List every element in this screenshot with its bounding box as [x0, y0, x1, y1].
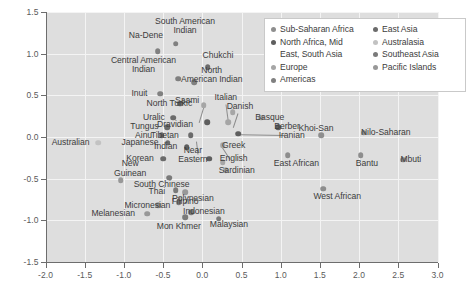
- y-axis-tick-label: 1.5: [8, 7, 39, 17]
- y-axis-tick: [41, 220, 46, 221]
- y-axis-tick-label: 0.0: [8, 132, 39, 142]
- x-axis-tick: [85, 263, 86, 268]
- y-axis-tick: [41, 179, 46, 180]
- data-point: [204, 119, 210, 125]
- point-label: West African: [313, 192, 360, 201]
- point-label: Bantu: [356, 159, 378, 168]
- legend-item-label: Europe: [280, 61, 307, 74]
- legend-marker-icon: [271, 65, 276, 70]
- legend-marker-icon: [373, 65, 378, 70]
- legend-marker-icon: [373, 27, 378, 32]
- data-point: [157, 91, 163, 97]
- x-axis-tick: [281, 263, 282, 268]
- x-axis-tick: [242, 263, 243, 268]
- point-label: South AmericanIndian: [155, 17, 215, 36]
- point-label: Nilo-Saharan: [361, 128, 411, 137]
- point-label: Chukchi: [203, 51, 234, 60]
- data-point: [160, 156, 166, 162]
- legend-item-label: Southeast Asia: [382, 48, 439, 61]
- x-axis-tick-label: 1.0: [275, 270, 287, 280]
- y-axis-line: [46, 12, 47, 262]
- x-axis-tick: [398, 263, 399, 268]
- x-axis-tick-label: 3.0: [431, 270, 443, 280]
- legend-marker-icon: [373, 52, 378, 57]
- point-label: East African: [274, 159, 319, 168]
- data-point: [201, 103, 207, 109]
- x-axis-tick-label: -1.5: [77, 270, 92, 280]
- grid-line-horizontal: [46, 12, 438, 13]
- data-point: [173, 41, 179, 47]
- point-label: Filipino: [172, 197, 199, 206]
- y-axis-tick-label: -1.0: [8, 215, 39, 225]
- data-point: [319, 133, 325, 139]
- point-label: Dravidian: [157, 120, 193, 129]
- point-label: Mon Khmer: [157, 222, 201, 231]
- data-point: [188, 133, 194, 139]
- point-label: Danish: [227, 102, 253, 111]
- legend-marker-icon: [271, 40, 276, 45]
- point-label: Mbuti: [400, 155, 421, 164]
- legend-item-label: Americas: [280, 73, 315, 86]
- y-axis-tick: [41, 137, 46, 138]
- y-axis-tick: [41, 12, 46, 13]
- y-axis-tick-label: -1.5: [8, 257, 39, 267]
- x-axis-tick: [46, 263, 47, 268]
- y-axis-tick: [41, 262, 46, 263]
- x-axis-tick-label: -2.0: [38, 270, 53, 280]
- data-point: [95, 140, 101, 146]
- x-axis-tick-label: -1.0: [116, 270, 131, 280]
- y-axis-tick-label: 1.0: [8, 49, 39, 59]
- point-label: NorthAmerican Indian: [181, 66, 242, 85]
- point-label: Indonesian: [183, 207, 225, 216]
- legend-marker-icon: [373, 40, 378, 45]
- legend-marker-icon: [271, 27, 276, 32]
- point-label: NewGuinean: [114, 159, 146, 178]
- point-label: Sardinian: [219, 166, 255, 175]
- legend-item-label: North Africa, Mid: [280, 36, 343, 49]
- mds-scatter-chart: -2.0-1.5-1.0-0.50.00.51.01.52.02.53.01.5…: [0, 0, 470, 303]
- x-axis-tick: [202, 263, 203, 268]
- legend-item-label: Australasia: [382, 36, 424, 49]
- legend-item-label: East, South Asia: [280, 48, 342, 61]
- x-axis-tick-label: 2.0: [353, 270, 365, 280]
- point-label: English: [220, 154, 248, 163]
- x-axis-tick-label: 0.5: [235, 270, 247, 280]
- legend: Sub-Saharan AfricaNorth Africa, MidEast,…: [264, 18, 466, 92]
- data-point: [225, 119, 231, 125]
- point-label: Malaysian: [210, 220, 248, 229]
- x-axis-tick: [438, 263, 439, 268]
- point-label: NearEastern: [178, 146, 207, 165]
- legend-item-label: Pacific Islands: [382, 61, 436, 74]
- x-axis-tick: [320, 263, 321, 268]
- point-label: Thai: [149, 187, 166, 196]
- x-axis-tick-label: 1.5: [314, 270, 326, 280]
- legend-item-label: East Asia: [382, 23, 417, 36]
- y-axis-tick-label: 0.5: [8, 90, 39, 100]
- x-axis-tick-label: 2.5: [392, 270, 404, 280]
- x-axis-tick: [124, 263, 125, 268]
- point-label: Khoi-San: [298, 124, 333, 133]
- y-axis-tick: [41, 54, 46, 55]
- point-label: Melanesian: [91, 209, 134, 218]
- y-axis-tick-label: -0.5: [8, 174, 39, 184]
- x-axis-tick: [163, 263, 164, 268]
- x-axis-tick: [359, 263, 360, 268]
- grid-line-horizontal: [46, 179, 438, 180]
- data-point: [155, 48, 161, 54]
- x-axis-tick-label: 0.0: [196, 270, 208, 280]
- point-label: Central AmericanIndian: [111, 56, 176, 75]
- point-label: Greek: [222, 141, 245, 150]
- point-label: Indian: [154, 142, 177, 151]
- data-point: [118, 178, 124, 184]
- point-label: Australian: [52, 138, 90, 147]
- data-point: [145, 211, 151, 217]
- legend-marker-icon: [271, 78, 276, 83]
- data-point: [175, 76, 181, 82]
- point-label: Japanese: [122, 138, 159, 147]
- x-axis-tick-label: -0.5: [156, 270, 171, 280]
- data-point: [236, 131, 242, 137]
- legend-item-label: Sub-Saharan Africa: [280, 23, 354, 36]
- point-label: Inuit: [131, 89, 147, 98]
- y-axis-tick: [41, 95, 46, 96]
- grid-line-horizontal: [46, 95, 438, 96]
